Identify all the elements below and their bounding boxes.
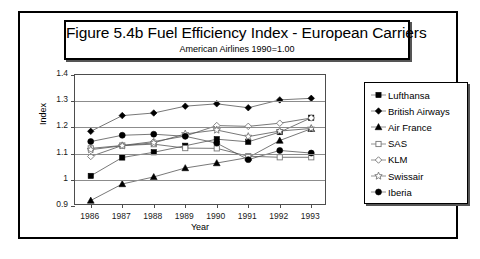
filled-diamond-marker (182, 103, 189, 110)
filled-triangle-icon (370, 121, 387, 133)
filled-square-marker (88, 173, 93, 178)
legend-label: British Airways (387, 106, 450, 117)
filled-diamond-marker (245, 105, 252, 112)
filled-square-marker (376, 92, 381, 97)
legend-item-air-france[interactable]: Air France (370, 119, 467, 135)
x-tick (122, 204, 123, 208)
x-tick (280, 204, 281, 208)
filled-square-marker (120, 155, 125, 160)
legend-label: KLM (387, 154, 408, 165)
legend-item-british-airways[interactable]: British Airways (370, 103, 467, 119)
y-tick-label: 0.9 (42, 199, 68, 209)
y-tick (71, 206, 75, 207)
open-star-icon (370, 170, 387, 182)
open-square-marker (183, 145, 188, 150)
filled-circle-marker (245, 157, 251, 163)
filled-circle-marker (277, 147, 283, 153)
filled-diamond-marker (151, 110, 158, 117)
legend-label: Lufthansa (387, 90, 430, 101)
filled-circle-icon (370, 186, 387, 198)
x-tick (311, 204, 312, 208)
legend-item-klm[interactable]: KLM (370, 152, 467, 168)
legend-label: SAS (387, 138, 407, 149)
y-tick (71, 75, 75, 76)
legend-item-sas[interactable]: SAS (370, 136, 467, 152)
open-square-marker (376, 141, 381, 146)
filled-diamond-marker (375, 108, 382, 115)
legend-label: Iberia (387, 187, 412, 198)
y-tick-label: 1.2 (42, 120, 68, 130)
x-tick (185, 204, 186, 208)
x-tick (154, 204, 155, 208)
filled-diamond-marker (119, 112, 126, 119)
gridline (75, 127, 325, 128)
gridline (75, 154, 325, 155)
legend-label: Air France (387, 122, 432, 133)
x-tick (248, 204, 249, 208)
legend-label: Swissair (387, 171, 423, 182)
filled-circle-marker (182, 133, 188, 139)
open-square-marker (277, 155, 282, 160)
filled-circle-marker (376, 189, 382, 195)
open-diamond-marker (375, 157, 382, 164)
filled-triangle-marker (276, 137, 283, 143)
filled-square-icon (370, 89, 387, 101)
chart-subtitle: American Airlines 1990=1.00 (66, 44, 408, 54)
y-tick-label: 1 (42, 173, 68, 183)
x-tick-label: 1993 (290, 211, 330, 221)
open-star-marker (245, 133, 252, 140)
open-square-icon (370, 138, 387, 150)
y-tick (71, 154, 75, 155)
open-diamond-icon (370, 154, 387, 166)
legend-item-iberia[interactable]: Iberia (370, 184, 467, 200)
y-tick-label: 1.3 (42, 94, 68, 104)
x-tick (91, 204, 92, 208)
filled-triangle-marker (87, 197, 94, 203)
y-tick (71, 101, 75, 102)
y-tick-label: 1.4 (42, 68, 68, 78)
open-diamond-marker (245, 123, 252, 130)
filled-square-marker (246, 139, 251, 144)
legend-item-lufthansa[interactable]: Lufthansa (370, 87, 467, 103)
gridline (75, 101, 325, 102)
y-tick (71, 180, 75, 181)
y-tick (71, 127, 75, 128)
open-star-marker (375, 172, 382, 179)
filled-circle-marker (214, 140, 220, 146)
filled-diamond-marker (88, 128, 95, 135)
open-diamond-marker (277, 120, 284, 127)
gridline (75, 180, 325, 181)
plot-area (74, 74, 326, 205)
legend-item-swissair[interactable]: Swissair (370, 168, 467, 184)
chart-title: Figure 5.4b Fuel Efficiency Index - Euro… (66, 24, 408, 42)
open-square-marker (214, 146, 219, 151)
filled-circle-marker (151, 131, 157, 137)
filled-diamond-icon (370, 105, 387, 117)
x-axis-title: Year (74, 222, 326, 232)
filled-circle-marker (88, 139, 94, 145)
filled-circle-marker (119, 132, 125, 138)
figure-outer-frame: Figure 5.4b Fuel Efficiency Index - Euro… (18, 11, 458, 239)
y-tick-label: 1.1 (42, 147, 68, 157)
title-box: Figure 5.4b Fuel Efficiency Index - Euro… (64, 20, 410, 60)
legend-box: LufthansaBritish AirwaysAir FranceSASKLM… (364, 82, 468, 204)
x-tick (217, 204, 218, 208)
series-plot (75, 75, 327, 206)
